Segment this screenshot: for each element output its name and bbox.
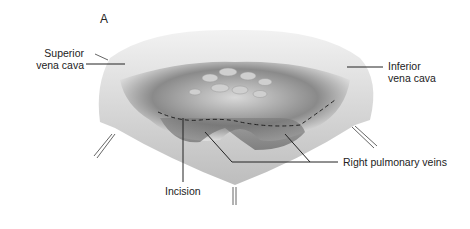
label-line: vena cava	[30, 59, 84, 71]
atrium-drawing	[0, 0, 470, 229]
label-line: Inferior	[388, 60, 436, 72]
label-right-pulmonary-veins: Right pulmonary veins	[343, 156, 447, 168]
label-line: Superior	[30, 47, 84, 59]
label-incision: Incision	[165, 185, 201, 197]
surgical-illustration: A Superior vena cava Inferior vena cava …	[0, 0, 470, 229]
label-inferior-vena-cava: Inferior vena cava	[388, 60, 436, 84]
panel-label: A	[100, 12, 108, 26]
label-line: vena cava	[388, 72, 436, 84]
label-superior-vena-cava: Superior vena cava	[30, 47, 84, 71]
